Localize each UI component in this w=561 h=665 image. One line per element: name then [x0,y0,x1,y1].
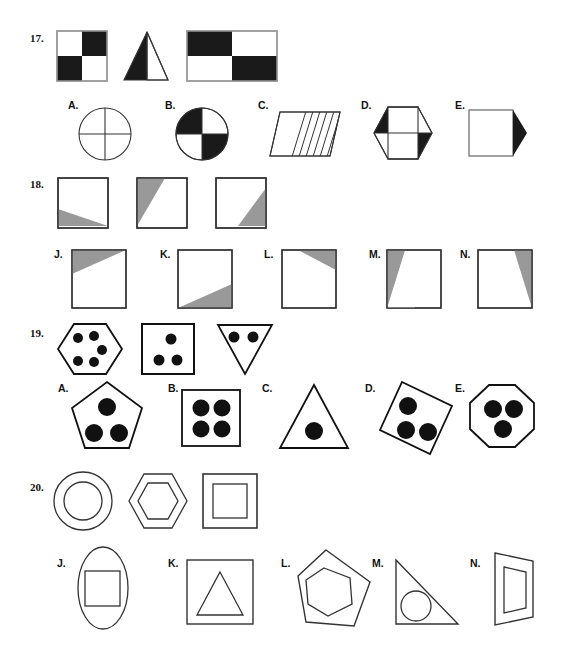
option-label-17-e: E. [455,99,465,111]
option-label-20-k: K. [168,557,179,569]
option-label-18-j: J. [54,248,63,260]
option-label-18-l: L. [264,248,273,260]
fig-19-prompt-3-inverted-triangle-two-dots [216,322,274,376]
fig-18-prompt-1-square-gray-bottom-left [56,176,110,230]
fig-20-option-m-triangle-with-circle[interactable] [390,558,460,628]
option-label-20-m: M. [372,557,384,569]
fig-17-option-b-circle-checkered[interactable] [174,106,230,162]
option-label-20-j: J. [57,557,66,569]
fig-18-prompt-3-square-gray-bottom-right [214,176,268,230]
fig-19-option-d-diamond-three-dots[interactable] [378,380,454,456]
fig-19-option-a-pentagon-three-dots[interactable] [70,380,144,452]
option-label-18-n: N. [460,248,471,260]
fig-18-option-n-square-gray-right-wedge[interactable] [476,248,534,310]
fig-19-prompt-1-hexagon-five-dots [56,322,124,376]
fig-19-option-c-triangle-one-dot[interactable] [278,383,350,451]
fig-17-prompt-2-half-shaded-triangle [122,30,170,82]
fig-17-option-c-parallelogram-hatched[interactable] [268,108,344,160]
question-number-19: 19. [30,327,44,339]
question-number-17: 17. [30,32,44,44]
fig-19-option-e-octagon-three-dots[interactable] [468,383,536,449]
option-label-18-m: M. [369,248,381,260]
fig-19-option-b-square-four-dots[interactable] [180,388,242,448]
option-label-17-d: D. [361,99,372,111]
option-label-19-b: B. [168,382,179,394]
fig-17-prompt-3-checkered-rectangle [186,30,278,82]
fig-17-prompt-1-checkered-square [56,30,108,82]
fig-18-option-j-square-gray-top-wedge[interactable] [70,248,128,310]
fig-20-prompt-3-square-in-square [201,472,259,530]
fig-18-option-k-square-gray-bottom-wedge[interactable] [176,248,234,310]
fig-19-prompt-2-square-three-dots [140,322,196,376]
fig-20-prompt-1-circle-in-circle [52,470,114,532]
fig-20-option-k-square-with-triangle[interactable] [185,558,255,626]
option-label-17-c: C. [258,99,269,111]
fig-20-prompt-2-hexagon-in-hexagon [127,472,189,530]
option-label-19-d: D. [365,382,376,394]
fig-18-option-l-square-gray-thin-top-right[interactable] [280,248,338,310]
option-label-18-k: K. [160,248,171,260]
fig-17-option-d-hexagon-with-rectangle[interactable] [372,104,434,162]
option-label-20-n: N. [470,557,481,569]
option-label-19-c: C. [262,382,273,394]
question-number-18: 18. [30,178,44,190]
fig-17-option-a-circle-quartered[interactable] [77,106,133,162]
fig-20-option-n-parallelogram-with-rectangle[interactable] [487,551,537,627]
option-label-19-a: A. [58,382,69,394]
option-label-20-l: L. [281,557,290,569]
fig-20-option-j-ellipse-with-square[interactable] [75,545,131,631]
question-number-20: 20. [30,481,44,493]
fig-17-option-e-square-with-black-arrow[interactable] [467,106,529,162]
fig-18-prompt-2-square-gray-top-left [135,176,189,230]
worksheet-page: 17. A. B. [0,0,561,665]
option-label-19-e: E. [455,382,465,394]
fig-20-option-l-pentagon-with-hexagon[interactable] [296,548,372,628]
fig-18-option-m-square-gray-left-wedge[interactable] [385,248,443,310]
